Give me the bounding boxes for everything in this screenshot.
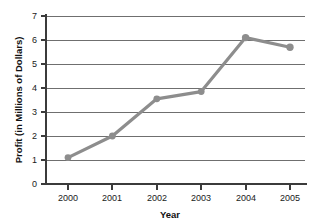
data-point-2001 [109, 133, 116, 140]
x-tick-label-2000: 2000 [58, 193, 78, 203]
line-chart-figure: 7 6 5 4 3 2 1 0 2000 2001 [0, 0, 314, 223]
data-point-2005 [286, 44, 293, 51]
data-point-2003 [198, 88, 205, 95]
y-axis-title: Profit (in Millions of Dollars) [13, 37, 24, 164]
y-tick-marks [41, 16, 46, 184]
y-tick-label-4: 4 [32, 83, 37, 93]
x-tick-label-2002: 2002 [147, 193, 167, 203]
data-point-2004 [242, 34, 249, 41]
y-tick-labels: 7 6 5 4 3 2 1 0 [32, 11, 37, 189]
x-tick-label-2001: 2001 [102, 193, 122, 203]
x-axis-title: Year [160, 209, 180, 220]
data-point-2002 [153, 95, 160, 102]
x-tick-label-2004: 2004 [236, 193, 256, 203]
x-tick-label-2005: 2005 [280, 193, 300, 203]
y-tick-label-5: 5 [32, 59, 37, 69]
x-tick-labels: 2000 2001 2002 2003 2004 2005 [58, 193, 300, 203]
y-tick-label-6: 6 [32, 35, 37, 45]
chart-canvas: 7 6 5 4 3 2 1 0 2000 2001 [0, 0, 314, 223]
y-tick-label-3: 3 [32, 107, 37, 117]
x-tick-marks [68, 184, 290, 190]
y-tick-label-1: 1 [32, 155, 37, 165]
y-tick-label-2: 2 [32, 131, 37, 141]
x-tick-label-2003: 2003 [191, 193, 211, 203]
profit-series [65, 34, 294, 161]
profit-line [68, 38, 290, 158]
y-tick-label-0: 0 [32, 179, 37, 189]
y-tick-label-7: 7 [32, 11, 37, 21]
chart-screenshot: 7 6 5 4 3 2 1 0 2000 2001 [0, 0, 314, 223]
gridlines [46, 16, 305, 160]
data-point-2000 [65, 154, 72, 161]
